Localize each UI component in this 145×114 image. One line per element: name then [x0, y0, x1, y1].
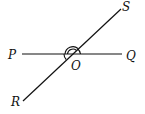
label-o: O — [71, 59, 81, 73]
geometry-diagram: P Q S R O — [0, 0, 145, 114]
label-s: S — [122, 0, 130, 14]
label-q: Q — [126, 49, 136, 63]
line-rs — [23, 9, 121, 101]
label-p: P — [7, 48, 17, 62]
label-r: R — [10, 95, 20, 109]
angle-mark-por — [64, 54, 66, 60]
angle-mark-soq — [78, 49, 81, 54]
